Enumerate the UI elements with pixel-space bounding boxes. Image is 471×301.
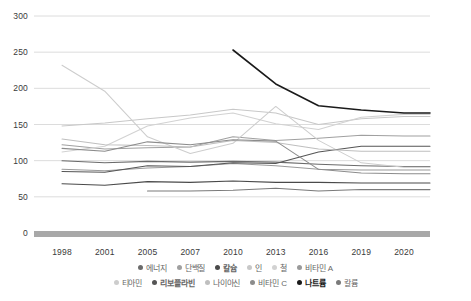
legend-item-label: 철 [280, 262, 287, 273]
x-tick-2007: 2007 [170, 247, 210, 257]
y-tick-50: 50 [2, 192, 28, 202]
series-line-3 [62, 109, 430, 126]
legend-dot-icon [272, 265, 277, 270]
legend-item-label: 칼륨 [344, 277, 358, 288]
legend-item-label: 리보플라빈 [160, 277, 195, 288]
legend-dot-icon [336, 280, 341, 285]
legend-dot-icon [297, 265, 302, 270]
x-tick-2005: 2005 [128, 247, 168, 257]
y-tick-300: 300 [2, 11, 28, 21]
series-line-10 [233, 50, 430, 113]
legend-item-label: 티아민 [122, 277, 143, 288]
legend-item-비타민 C[interactable]: 비타민 C [250, 277, 287, 288]
legend-item-label: 인 [255, 262, 262, 273]
legend-dot-icon [177, 265, 182, 270]
legend-item-나이아신[interactable]: 나이아신 [205, 277, 241, 288]
legend-dot-icon [297, 280, 302, 285]
x-tick-2020: 2020 [384, 247, 424, 257]
legend-item-label: 나트륨 [305, 277, 326, 288]
legend-row-2: 티아민리보플라빈나이아신비타민 C나트륨칼륨 [0, 275, 471, 290]
chart-screenshot: 300250200150100500 199820012005200720102… [0, 0, 471, 301]
legend-item-label: 비타민 C [258, 277, 287, 288]
legend-item-인[interactable]: 인 [247, 262, 262, 273]
series-line-1 [62, 135, 430, 149]
series-line-11 [148, 188, 431, 191]
y-tick-250: 250 [2, 47, 28, 57]
legend-item-칼슘[interactable]: 칼슘 [215, 262, 237, 273]
series-line-7 [62, 146, 430, 172]
legend-item-비타민 A[interactable]: 비타민 A [297, 262, 333, 273]
series-line-2 [62, 181, 430, 185]
legend-row-1: 에너지단백질칼슘인철비타민 A [0, 260, 471, 275]
legend-item-label: 단백질 [185, 262, 206, 273]
legend-dot-icon [138, 265, 143, 270]
y-tick-100: 100 [2, 156, 28, 166]
x-tick-2001: 2001 [85, 247, 125, 257]
legend-item-철[interactable]: 철 [272, 262, 287, 273]
axis-baseline-bar [34, 231, 430, 237]
legend-dot-icon [114, 280, 119, 285]
legend-item-티아민[interactable]: 티아민 [114, 277, 143, 288]
x-tick-1998: 1998 [42, 247, 82, 257]
legend-item-단백질[interactable]: 단백질 [177, 262, 206, 273]
chart-svg [0, 0, 471, 245]
x-tick-2019: 2019 [341, 247, 381, 257]
legend-item-나트륨[interactable]: 나트륨 [297, 277, 326, 288]
legend-item-label: 에너지 [146, 262, 167, 273]
legend-dot-icon [205, 280, 210, 285]
legend-item-에너지[interactable]: 에너지 [138, 262, 167, 273]
legend-dot-icon [247, 265, 252, 270]
legend-dot-icon [152, 280, 157, 285]
x-tick-2010: 2010 [213, 247, 253, 257]
legend-item-label: 나이아신 [213, 277, 241, 288]
legend-dot-icon [215, 265, 220, 270]
line-chart-plot-area [0, 0, 471, 245]
legend-item-칼륨[interactable]: 칼륨 [336, 277, 358, 288]
legend-item-리보플라빈[interactable]: 리보플라빈 [152, 277, 195, 288]
y-tick-200: 200 [2, 83, 28, 93]
chart-legend: 에너지단백질칼슘인철비타민 A 티아민리보플라빈나이아신비타민 C나트륨칼륨 [0, 260, 471, 290]
legend-dot-icon [250, 280, 255, 285]
y-tick-0: 0 [2, 228, 28, 238]
x-tick-2016: 2016 [299, 247, 339, 257]
x-tick-2013: 2013 [256, 247, 296, 257]
y-tick-150: 150 [2, 120, 28, 130]
legend-item-label: 칼슘 [223, 262, 237, 273]
legend-item-label: 비타민 A [305, 262, 333, 273]
